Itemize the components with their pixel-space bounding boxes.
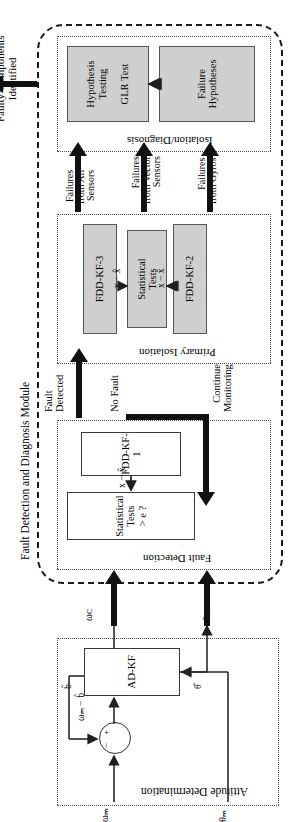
attitude-estimate-label: θ̂ bbox=[193, 684, 204, 689]
sum-minus-sign: − bbox=[101, 743, 111, 748]
theta-m-output-label: θₘ bbox=[201, 609, 212, 621]
primary-isolation-title: Primary Isolation bbox=[139, 346, 216, 358]
failures-from-all-sensors-label: Failures from All Sensors bbox=[65, 170, 97, 204]
fault-detection-residual-label: x − x̂ bbox=[117, 467, 128, 488]
failure-hypotheses-block: Failure Hypotheses bbox=[159, 46, 255, 122]
statistical-tests-detection-block: Statistical Tests > e ? bbox=[67, 492, 195, 540]
fault-detection-title: Fault Detection bbox=[143, 552, 211, 564]
fdd-module-title: Fault Detection and Diagnosis Module bbox=[19, 382, 31, 560]
theta-m-input-label: θₘ bbox=[217, 810, 228, 822]
no-fault-label: No Fault bbox=[109, 375, 120, 412]
hypothesis-testing-glr-block: Hypothesis Testing GLR Test bbox=[67, 46, 149, 122]
diagram-canvas: Attitude Determination ωₘ θₘ − + AD-KF ω… bbox=[21, 0, 299, 816]
omega-c-output-label: ωᴄ bbox=[83, 609, 94, 621]
failures-from-vector-sensors-label: Failures from Vector Sensors bbox=[131, 156, 163, 204]
fdd-kf-1-block: FDD-KF-1 bbox=[81, 432, 181, 476]
bias-corrected-rate-label: ωₘ − b̂ bbox=[76, 693, 87, 721]
isolation-residual-right-label: x − x̂ bbox=[113, 268, 123, 288]
continue-monitoring-label: Continue Monitoring bbox=[211, 364, 233, 412]
isolation-residual-left-label: x − x̂ bbox=[157, 268, 167, 288]
faulty-components-identified-label: Faulty Components Identified bbox=[0, 36, 18, 122]
fault-detected-label: Fault Detected bbox=[43, 375, 65, 412]
isolation-diagnosis-title: Isolation/Diagnosis bbox=[127, 134, 213, 146]
summing-junction bbox=[99, 722, 131, 754]
sum-plus-sign: + bbox=[101, 730, 111, 735]
omega-m-input-label: ωₘ bbox=[99, 808, 110, 822]
attitude-determination-title: Attitude Determination bbox=[141, 786, 248, 798]
ad-kf-block: AD-KF bbox=[84, 648, 180, 696]
fdd-kf-2-block: FDD-KF-2 bbox=[173, 224, 207, 334]
bias-estimate-label: b̂ bbox=[63, 684, 74, 689]
failures-from-gyros-label: Failures from Gyros bbox=[197, 158, 218, 204]
